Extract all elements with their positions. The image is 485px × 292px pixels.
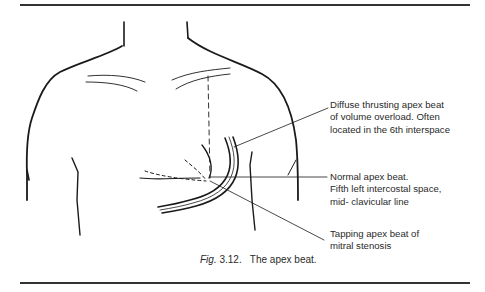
caption-text: The apex beat. bbox=[242, 254, 317, 265]
bottom-rule bbox=[20, 282, 470, 284]
figure-caption: Fig. 3.12. The apex beat. bbox=[200, 254, 317, 265]
caption-number: 3.12. bbox=[217, 254, 242, 265]
caption-prefix: Fig. bbox=[200, 254, 217, 265]
label-diffuse-apex-beat: Diffuse thrusting apex beat of volume ov… bbox=[330, 99, 450, 136]
label-tapping-apex-beat: Tapping apex beat of mitral stenosis bbox=[330, 228, 419, 253]
label-normal-apex-beat: Normal apex beat. Fifth left intercostal… bbox=[330, 171, 441, 208]
